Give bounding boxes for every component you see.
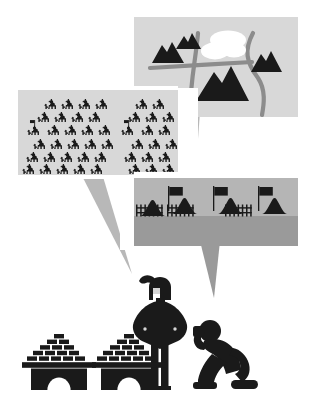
messenger-knee-base	[193, 382, 217, 389]
messenger-fist	[193, 326, 204, 337]
helmet-face-cut	[153, 288, 160, 294]
cavalry-panel-body	[18, 90, 178, 175]
camp-ground	[134, 216, 298, 246]
cloak-rivet-left	[143, 327, 146, 330]
messenger-foot-front	[231, 380, 258, 389]
cloak-rivet-right	[173, 327, 176, 330]
illustration-canvas	[0, 0, 315, 420]
